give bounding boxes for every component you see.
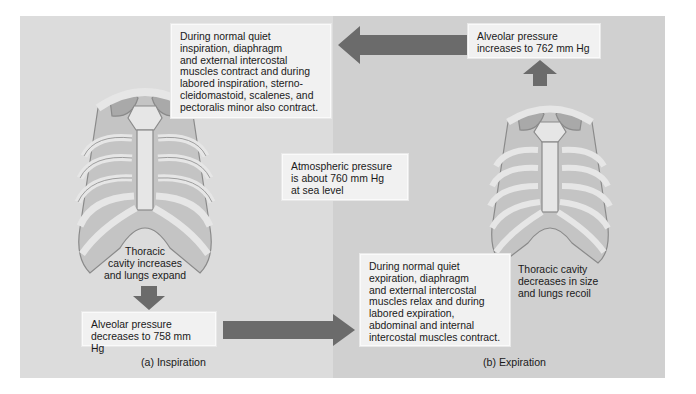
- ribcage-expiration-illustration: [480, 98, 620, 268]
- expiration-muscle-note: During normal quiet expiration, diaphrag…: [360, 254, 510, 346]
- inspiration-alveolar-pressure: Alveolar pressure decreases to 758 mm Hg: [82, 312, 216, 346]
- arrow-left-icon: [338, 26, 470, 64]
- arrow-down-icon: [133, 286, 165, 310]
- expiration-cavity-note: Thoracic cavity decreases in size and lu…: [518, 264, 628, 299]
- inspiration-muscle-note: During normal quiet inspiration, diaphra…: [171, 24, 331, 118]
- arrow-up-icon: [523, 60, 557, 86]
- inspiration-cavity-note: Thoracic cavity increases and lungs expa…: [90, 246, 200, 281]
- caption-inspiration: (a) Inspiration: [141, 356, 206, 368]
- atmospheric-pressure-note: Atmospheric pressure is about 760 mm Hg …: [282, 154, 408, 200]
- respiration-figure: During normal quiet inspiration, diaphra…: [20, 16, 665, 378]
- arrow-right-icon: [223, 314, 355, 346]
- expiration-alveolar-pressure: Alveolar pressure increases to 762 mm Hg: [468, 24, 600, 58]
- caption-expiration: (b) Expiration: [483, 356, 546, 368]
